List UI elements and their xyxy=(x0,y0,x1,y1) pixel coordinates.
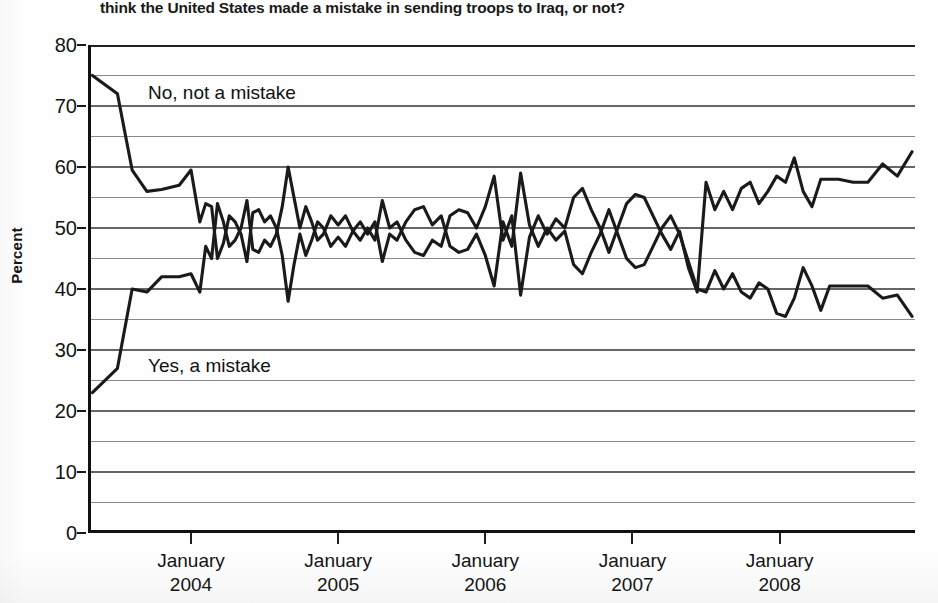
x-tick-month: January xyxy=(452,550,520,571)
x-tick-label: January2008 xyxy=(746,549,814,597)
x-tick-label: January2005 xyxy=(304,549,372,597)
y-tick-label: 20 xyxy=(55,400,77,423)
x-tick-mark xyxy=(631,533,633,544)
y-tick-mark xyxy=(77,105,86,107)
x-tick-year: 2007 xyxy=(611,574,653,595)
x-tick-mark xyxy=(190,533,192,544)
x-tick-year: 2008 xyxy=(758,574,800,595)
y-tick-label: 70 xyxy=(55,95,77,118)
x-tick-mark xyxy=(484,533,486,544)
y-tick-mark xyxy=(77,532,86,534)
x-tick-label: January2007 xyxy=(599,549,667,597)
x-tick-label: January2006 xyxy=(452,549,520,597)
x-tick-month: January xyxy=(746,550,814,571)
chart-plot-area: 01020304050607080 January2004January2005… xyxy=(88,45,915,533)
y-tick-mark xyxy=(77,288,86,290)
x-tick-year: 2006 xyxy=(464,574,506,595)
y-tick-mark xyxy=(77,227,86,229)
y-tick-label: 50 xyxy=(55,217,77,240)
chart-question-title: think the United States made a mistake i… xyxy=(100,0,920,17)
y-tick-mark xyxy=(77,44,86,46)
y-tick-label: 60 xyxy=(55,156,77,179)
y-tick-label: 0 xyxy=(66,522,77,545)
y-tick-label: 80 xyxy=(55,34,77,57)
x-tick-year: 2005 xyxy=(317,574,359,595)
x-tick-month: January xyxy=(157,550,225,571)
line-chart-svg xyxy=(88,45,915,533)
y-tick-mark xyxy=(77,166,86,168)
x-tick-month: January xyxy=(304,550,372,571)
y-tick-mark xyxy=(77,471,86,473)
x-tick-year: 2004 xyxy=(170,574,212,595)
y-tick-label: 40 xyxy=(55,278,77,301)
y-tick-label: 10 xyxy=(55,461,77,484)
y-axis-title: Percent xyxy=(8,216,25,296)
y-tick-mark xyxy=(77,349,86,351)
x-tick-label: January2004 xyxy=(157,549,225,597)
x-tick-mark xyxy=(337,533,339,544)
x-tick-mark xyxy=(779,533,781,544)
series-line-no xyxy=(92,76,912,302)
y-tick-label: 30 xyxy=(55,339,77,362)
y-tick-mark xyxy=(77,410,86,412)
series-label-no: No, not a mistake xyxy=(148,82,296,104)
series-label-yes: Yes, a mistake xyxy=(148,355,271,377)
x-tick-month: January xyxy=(599,550,667,571)
